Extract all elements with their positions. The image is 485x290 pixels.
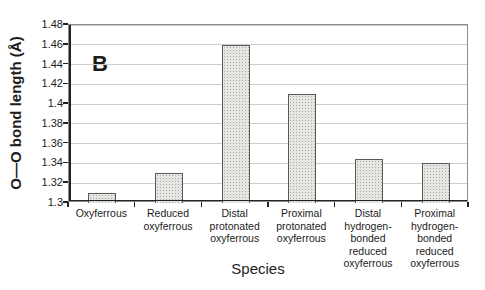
x-category-label: Reduced oxyferrous bbox=[135, 207, 202, 232]
y-tick-mark bbox=[63, 63, 68, 65]
gridline bbox=[69, 44, 467, 45]
x-tick-mark bbox=[401, 202, 403, 207]
y-tick-label: 1.48 bbox=[29, 18, 63, 30]
x-category-label: Oxyferrous bbox=[68, 207, 135, 220]
y-tick-mark bbox=[63, 102, 68, 104]
x-tick-mark bbox=[201, 202, 203, 207]
x-tick-mark bbox=[467, 202, 469, 207]
bar bbox=[355, 159, 383, 204]
plot-area bbox=[68, 24, 468, 202]
gridline bbox=[69, 104, 467, 105]
x-category-label: Proximal hydrogen- bonded reduced oxyfer… bbox=[401, 207, 468, 270]
y-tick-label: 1.36 bbox=[29, 137, 63, 149]
bar bbox=[88, 193, 116, 203]
y-tick-mark bbox=[63, 122, 68, 124]
gridline bbox=[69, 64, 467, 65]
y-axis-line bbox=[69, 25, 71, 201]
gridline bbox=[69, 84, 467, 85]
y-tick-mark bbox=[63, 181, 68, 183]
y-tick-mark bbox=[63, 83, 68, 85]
y-tick-mark bbox=[63, 162, 68, 164]
x-tick-mark bbox=[267, 202, 269, 207]
x-category-label: Distal protonated oxyferrous bbox=[201, 207, 268, 245]
y-tick-label: 1.44 bbox=[29, 58, 63, 70]
x-category-label: Distal hydrogen- bonded reduced oxyferro… bbox=[335, 207, 402, 270]
y-tick-mark bbox=[63, 43, 68, 45]
y-tick-label: 1.46 bbox=[29, 38, 63, 50]
y-axis-title: O—O bond length (Å) bbox=[7, 23, 27, 203]
x-tick-mark bbox=[67, 202, 69, 207]
y-tick-label: 1.34 bbox=[29, 156, 63, 168]
y-tick-label: 1.38 bbox=[29, 117, 63, 129]
y-tick-label: 1.3 bbox=[29, 196, 63, 208]
y-tick-label: 1.32 bbox=[29, 176, 63, 188]
x-category-label: Proximal protonated oxyferrous bbox=[268, 207, 335, 245]
bar bbox=[222, 45, 250, 203]
x-axis-line bbox=[69, 200, 467, 202]
y-tick-label: 1.4 bbox=[29, 97, 63, 109]
bar bbox=[288, 94, 316, 203]
gridline bbox=[69, 163, 467, 164]
gridline bbox=[69, 123, 467, 124]
y-tick-label: 1.42 bbox=[29, 77, 63, 89]
gridline bbox=[69, 143, 467, 144]
y-tick-mark bbox=[63, 142, 68, 144]
x-tick-mark bbox=[134, 202, 136, 207]
gridline bbox=[69, 183, 467, 184]
x-tick-mark bbox=[334, 202, 336, 207]
bar-chart-figure: O—O bond length (Å) B 1.31.321.341.361.3… bbox=[0, 0, 485, 290]
y-tick-mark bbox=[63, 23, 68, 25]
gridline bbox=[69, 25, 467, 26]
x-axis-title: Species bbox=[198, 260, 318, 277]
bar bbox=[422, 163, 450, 203]
